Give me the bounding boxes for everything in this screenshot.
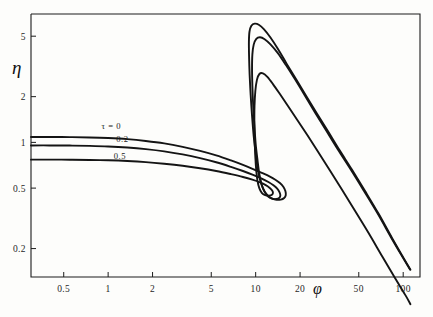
x-tick-label: 50 xyxy=(354,284,364,294)
x-axis-ticks xyxy=(64,272,403,277)
y-axis-ticks xyxy=(31,36,36,248)
y-tick-label: 2 xyxy=(21,92,26,102)
x-axis-label: φ xyxy=(313,280,322,298)
x-tick-label: 100 xyxy=(395,284,410,294)
curve-annotations: τ = 00.20.5 xyxy=(102,121,129,161)
x-tick-label: 0.5 xyxy=(57,284,70,294)
curve-label-tau0: τ = 0 xyxy=(102,121,121,131)
x-tick-label: 20 xyxy=(295,284,305,294)
x-tick-label: 1 xyxy=(106,284,111,294)
y-tick-label: 0.2 xyxy=(13,244,26,254)
y-tick-label: 5 xyxy=(21,32,26,42)
figure-panel: 0.5125102050100 0.20.5125 τ = 00.20.5 η … xyxy=(0,0,433,317)
y-axis-label: η xyxy=(12,57,21,78)
log-log-plot: 0.5125102050100 0.20.5125 τ = 00.20.5 η … xyxy=(0,0,433,317)
curve-label-tau05: 0.5 xyxy=(114,151,126,161)
y-tick-label: 0.5 xyxy=(13,184,26,194)
data-curves xyxy=(31,24,410,305)
x-tick-label: 5 xyxy=(209,284,214,294)
x-tick-label: 10 xyxy=(251,284,261,294)
y-tick-label: 1 xyxy=(21,138,26,148)
x-axis-tick-labels: 0.5125102050100 xyxy=(57,284,411,294)
curve-label-tau02: 0.2 xyxy=(116,134,128,144)
curve-0-2 xyxy=(31,37,410,269)
curve-0-5 xyxy=(31,73,410,304)
x-tick-label: 2 xyxy=(150,284,155,294)
